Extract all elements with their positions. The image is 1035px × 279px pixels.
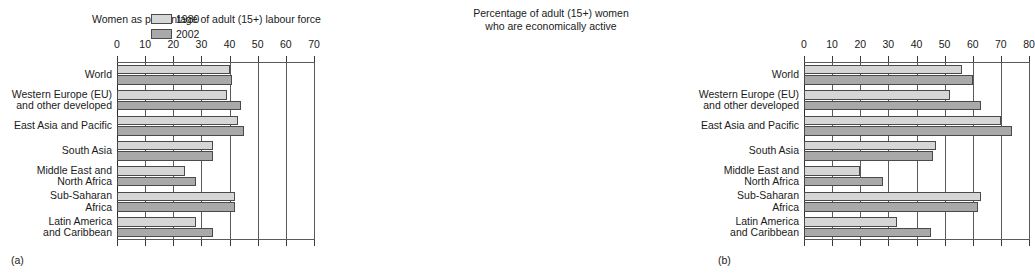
- tick-mark-bottom-20: [860, 240, 861, 246]
- category-label: East Asia and Pacific: [679, 120, 804, 132]
- chart-panel-a: Women as percentage of adult (15+) labou…: [0, 0, 355, 279]
- tick-mark-bottom-10: [832, 240, 833, 246]
- tick-mark-bottom-20: [173, 240, 174, 246]
- tick-mark-bottom-80: [1029, 240, 1030, 246]
- bar-2002: [117, 151, 213, 161]
- tick-mark-bottom-60: [973, 240, 974, 246]
- tick-mark-bottom-40: [917, 240, 918, 246]
- x-tick-label-50: 50: [252, 38, 264, 50]
- bar-row: South Asia: [804, 138, 1029, 163]
- bar-2002: [117, 177, 196, 187]
- panel-b-plot-area: 01020304050607080WorldWestern Europe (EU…: [804, 62, 1029, 240]
- gridline-70: [314, 62, 315, 240]
- category-label: East Asia and Pacific: [0, 120, 117, 132]
- x-tick-label-60: 60: [967, 38, 979, 50]
- panel-a-plot-area: 010203040506070WorldWestern Europe (EU) …: [117, 62, 314, 240]
- legend-label-1980: 1980: [176, 13, 199, 26]
- category-label: Western Europe (EU) and other developed: [679, 89, 804, 112]
- bar-2002: [804, 126, 1012, 136]
- bar-2002: [804, 151, 933, 161]
- bar-row: Western Europe (EU) and other developed: [804, 87, 1029, 112]
- panel-b-title: Percentage of adult (15+) women who are …: [355, 7, 711, 33]
- bar-1980: [117, 65, 230, 75]
- x-tick-label-80: 80: [1023, 38, 1035, 50]
- bar-2002: [804, 75, 973, 85]
- bar-1980: [804, 166, 860, 176]
- tick-mark-bottom-0: [804, 240, 805, 246]
- bar-row: Latin America and Caribbean: [804, 215, 1029, 240]
- bar-1980: [804, 90, 950, 100]
- bar-row: East Asia and Pacific: [804, 113, 1029, 138]
- tick-mark-top-70: [314, 56, 315, 62]
- x-tick-label-70: 70: [308, 38, 320, 50]
- bar-2002: [117, 202, 235, 212]
- bar-2002: [804, 228, 931, 238]
- x-tick-label-40: 40: [224, 38, 236, 50]
- bar-1980: [804, 65, 962, 75]
- bar-1980: [804, 141, 936, 151]
- bar-row: Latin America and Caribbean: [117, 215, 314, 240]
- category-label: Middle East and North Africa: [679, 165, 804, 188]
- category-label: World: [679, 69, 804, 81]
- bar-row: World: [804, 62, 1029, 87]
- category-label: Sub-Saharan Africa: [679, 190, 804, 213]
- bar-2002: [117, 75, 232, 85]
- tick-mark-bottom-70: [314, 240, 315, 246]
- gridline-80: [1029, 62, 1030, 240]
- tick-mark-bottom-10: [145, 240, 146, 246]
- x-tick-label-0: 0: [801, 38, 807, 50]
- bar-row: Western Europe (EU) and other developed: [117, 87, 314, 112]
- bar-2002: [804, 177, 883, 187]
- tick-mark-bottom-30: [888, 240, 889, 246]
- chart-panel-b: Percentage of adult (15+) women who are …: [355, 0, 711, 279]
- category-label: South Asia: [0, 145, 117, 157]
- bar-row: South Asia: [117, 138, 314, 163]
- bar-2002: [804, 202, 978, 212]
- bar-row: World: [117, 62, 314, 87]
- panel-a-caption: (a): [11, 254, 24, 266]
- tick-mark-bottom-0: [117, 240, 118, 246]
- legend-swatch-2002: [151, 29, 172, 39]
- bar-row: Sub-Saharan Africa: [117, 189, 314, 214]
- x-tick-label-10: 10: [826, 38, 838, 50]
- bar-1980: [804, 116, 1001, 126]
- bar-2002: [117, 101, 241, 111]
- category-label: Latin America and Caribbean: [0, 216, 117, 239]
- category-label: Middle East and North Africa: [0, 165, 117, 188]
- tick-mark-bottom-30: [201, 240, 202, 246]
- bar-2002: [117, 228, 213, 238]
- x-tick-label-40: 40: [911, 38, 923, 50]
- category-label: South Asia: [679, 145, 804, 157]
- bar-row: Middle East and North Africa: [804, 164, 1029, 189]
- legend-label-2002: 2002: [176, 28, 199, 41]
- x-tick-label-70: 70: [995, 38, 1007, 50]
- tick-mark-bottom-50: [945, 240, 946, 246]
- category-label: World: [0, 69, 117, 81]
- x-tick-label-50: 50: [939, 38, 951, 50]
- bar-1980: [117, 90, 227, 100]
- bar-row: Sub-Saharan Africa: [804, 189, 1029, 214]
- bar-1980: [804, 217, 897, 227]
- tick-mark-bottom-70: [1001, 240, 1002, 246]
- bar-row: East Asia and Pacific: [117, 113, 314, 138]
- bar-2002: [804, 101, 981, 111]
- bar-1980: [117, 217, 196, 227]
- bar-2002: [117, 126, 244, 136]
- panel-b-caption: (b): [718, 254, 731, 266]
- tick-mark-bottom-40: [230, 240, 231, 246]
- bar-row: Middle East and North Africa: [117, 164, 314, 189]
- tick-mark-bottom-60: [286, 240, 287, 246]
- bar-1980: [117, 141, 213, 151]
- bar-1980: [117, 166, 185, 176]
- x-tick-label-20: 20: [854, 38, 866, 50]
- x-tick-label-60: 60: [280, 38, 292, 50]
- bar-1980: [804, 192, 981, 202]
- x-tick-label-30: 30: [883, 38, 895, 50]
- x-tick-label-0: 0: [114, 38, 120, 50]
- tick-mark-bottom-50: [258, 240, 259, 246]
- category-label: Sub-Saharan Africa: [0, 190, 117, 213]
- bar-1980: [117, 192, 235, 202]
- x-tick-label-10: 10: [139, 38, 151, 50]
- tick-mark-top-80: [1029, 56, 1030, 62]
- legend-swatch-1980: [151, 14, 172, 24]
